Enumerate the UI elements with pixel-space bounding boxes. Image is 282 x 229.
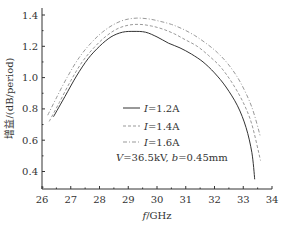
gain-vs-frequency-chart: 262728293031323334 0.40.60.81.01.21.4 I=… <box>0 0 282 229</box>
y-tick-label: 0.6 <box>22 135 38 146</box>
y-tick-label: 1.4 <box>22 10 38 21</box>
legend: I=1.2A I=1.4A I=1.6A V=36.5kV, b=0.45mm <box>116 103 228 163</box>
legend-label: =1.6A <box>148 137 180 148</box>
legend-label: =1.2A <box>148 103 180 114</box>
x-tick-label: 34 <box>266 194 279 205</box>
x-tick-label: 27 <box>64 194 77 205</box>
y-tick-label: 1.2 <box>22 41 38 52</box>
legend-label: =1.4A <box>148 121 180 132</box>
svg-text:I=1.6A: I=1.6A <box>143 137 180 148</box>
legend-item-1: I=1.2A <box>123 103 180 114</box>
y-tick-label: 0.8 <box>22 103 38 114</box>
x-tick-label: 28 <box>93 194 106 205</box>
y-axis-label: 增益/(dB/period) <box>3 57 15 138</box>
y-tick-label: 0.4 <box>22 166 38 177</box>
legend-item-2: I=1.4A <box>123 121 180 132</box>
x-axis-label: f/GHz <box>141 210 171 221</box>
svg-text:I=1.2A: I=1.2A <box>143 103 180 114</box>
x-tick-label: 29 <box>122 194 135 205</box>
svg-text:I=1.4A: I=1.4A <box>143 121 180 132</box>
parameter-annotation: V=36.5kV, b=0.45mm <box>116 152 228 163</box>
x-tick-label: 26 <box>36 194 49 205</box>
x-tick-label: 30 <box>151 194 164 205</box>
x-tick-label: 32 <box>208 194 221 205</box>
legend-item-3: I=1.6A <box>123 137 180 148</box>
y-tick-label: 1.0 <box>22 72 38 83</box>
x-tick-label: 33 <box>237 194 250 205</box>
x-tick-label: 31 <box>179 194 192 205</box>
